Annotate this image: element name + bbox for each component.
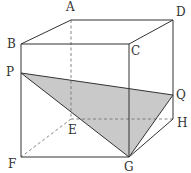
edge-ef <box>21 119 71 157</box>
label-q: Q <box>176 88 186 102</box>
cube-diagram: A B C D E F G H P Q <box>0 0 191 173</box>
label-c: C <box>131 44 140 58</box>
cross-section-triangle-pqg <box>21 73 173 157</box>
edge-cd <box>129 20 173 44</box>
label-h: H <box>177 116 187 130</box>
cube-svg: A B C D E F G H P Q <box>0 0 191 173</box>
label-b: B <box>7 37 16 51</box>
label-p: P <box>6 65 14 79</box>
label-a: A <box>65 0 75 14</box>
label-d: D <box>176 5 186 19</box>
label-e: E <box>68 123 77 137</box>
label-g: G <box>124 160 134 173</box>
label-f: F <box>8 157 16 171</box>
edge-ab <box>21 20 71 44</box>
